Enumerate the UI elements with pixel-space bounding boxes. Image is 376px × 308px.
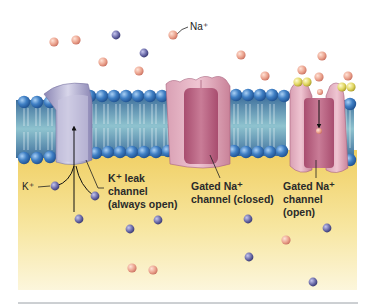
label-k-leak-channel-line2: channel (108, 185, 148, 197)
gate-ball (293, 77, 302, 86)
k-ion (244, 215, 253, 224)
na-ion (71, 35, 80, 44)
k-ion (309, 278, 318, 287)
label-k-ion: K⁺ (22, 181, 34, 192)
na-ion (168, 30, 177, 39)
label-gated-closed-line2: channel (closed) (191, 193, 274, 205)
gate-ball (346, 82, 355, 91)
k-ion (140, 49, 149, 58)
k-ion (91, 192, 100, 201)
na-ion (317, 51, 326, 60)
k-ion (51, 182, 60, 191)
label-gated-open-line2: channel (283, 193, 323, 205)
na-ion (127, 263, 136, 272)
k-ion (75, 215, 84, 224)
na-ion (297, 65, 306, 74)
na-ion (314, 72, 323, 81)
na-ion (148, 265, 157, 274)
na-ion (236, 50, 245, 59)
label-k-leak-channel-line1: K⁺ leak (108, 172, 145, 184)
k-ion (245, 253, 254, 262)
k-ion (126, 225, 135, 234)
gate-ball (337, 82, 346, 91)
label-gated-open-line3: (open) (283, 206, 315, 218)
gated-na-channel-closed (166, 76, 230, 168)
na-ion (260, 71, 269, 80)
na-ion (49, 37, 58, 46)
k-ion (323, 224, 332, 233)
na-ion (134, 66, 143, 75)
label-gated-closed-line1: Gated Na⁺ (191, 180, 243, 192)
gate-ball (302, 77, 311, 86)
na-ion (343, 71, 352, 80)
na-ion (98, 57, 107, 66)
diagram-canvas: Na⁺ K⁺ K⁺ leak channel (always open) Gat… (0, 0, 376, 308)
label-gated-open-line1: Gated Na⁺ (283, 180, 335, 192)
ion-channel-diagram: Na⁺ K⁺ K⁺ leak channel (always open) Gat… (0, 0, 376, 308)
k-ion (154, 216, 163, 225)
label-na-ion: Na⁺ (190, 21, 208, 32)
na-ion (281, 235, 290, 244)
label-k-leak-channel-line3: (always open) (108, 198, 177, 210)
gated-na-channel-open (290, 77, 356, 172)
k-ion (112, 31, 121, 40)
